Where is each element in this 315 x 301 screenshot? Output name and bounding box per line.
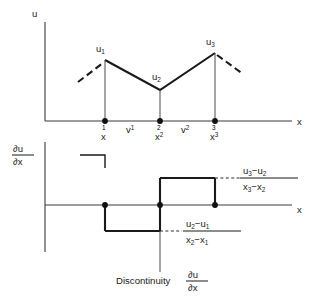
- right-dashed-extension: [217, 55, 243, 74]
- node-label-u2-subscript: 2: [157, 76, 161, 83]
- node-label-u1-subscript: 1: [101, 48, 105, 55]
- lower-node-dot-1: [102, 202, 108, 208]
- lower-y-axis-label-top: ∂u: [13, 143, 23, 154]
- element-label-v2-superscript: 2: [186, 124, 190, 131]
- lower-x-axis-label: x: [297, 204, 302, 215]
- tick-label-2-superscript: 2: [160, 131, 164, 138]
- tick-label-1-base: x: [101, 131, 106, 142]
- node-label-u3-subscript: 3: [211, 41, 215, 48]
- left-dashed-extension: [78, 63, 103, 82]
- slope-right-numerator: u3−u2: [243, 165, 267, 177]
- reference-level-stub: [80, 155, 105, 168]
- figure-container: u x u1 u2 u3 1 x 2: [0, 0, 315, 301]
- slope-left-den-b-sub: 1: [205, 239, 209, 246]
- tick-label-2: x2: [155, 131, 164, 142]
- element-label-v2: v2: [181, 124, 190, 135]
- lower-node-dot-2: [157, 202, 163, 208]
- caption-symbol-top: ∂u: [188, 269, 198, 280]
- slope-right-num-b-sub: 2: [263, 170, 267, 177]
- lower-plot-group: ∂u ∂x x u3−u2: [12, 142, 302, 272]
- slope-left-num-b-sub: 1: [206, 223, 210, 230]
- node-label-u1: u1: [96, 43, 105, 55]
- lower-node-dot-3: [212, 202, 218, 208]
- math-figure-svg: u x u1 u2 u3 1 x 2: [0, 0, 315, 301]
- upper-y-axis-label: u: [32, 8, 37, 19]
- upper-x-axis-label: x: [297, 116, 302, 127]
- slope-right-den-b-sub: 2: [262, 186, 266, 193]
- slope-left-numerator: u2−u1: [186, 218, 210, 230]
- element-label-v1-superscript: 1: [131, 124, 135, 131]
- piecewise-linear-curve: [105, 53, 215, 90]
- node-label-u3: u3: [206, 36, 215, 48]
- node-label-u2: u2: [152, 71, 161, 83]
- slope-right-denominator: x3−x2: [243, 181, 266, 193]
- caption-text: Discontinuity: [116, 275, 171, 286]
- slope-right-fraction: u3−u2 x3−x2: [240, 165, 298, 193]
- lower-y-axis-label-bottom: ∂x: [13, 156, 23, 167]
- slope-left-denominator: x2−x1: [186, 234, 209, 246]
- element-label-v1: v1: [126, 124, 135, 135]
- upper-plot-group: u x u1 u2 u3 1 x 2: [32, 8, 302, 142]
- figure-caption: Discontinuity ∂u ∂x: [116, 269, 208, 293]
- slope-left-fraction: u2−u1 x2−x1: [183, 218, 241, 246]
- caption-symbol-bottom: ∂x: [188, 282, 198, 293]
- tick-label-1: x: [101, 131, 106, 142]
- tick-label-3: x3: [210, 131, 219, 142]
- tick-number-1: 1: [102, 124, 106, 131]
- tick-label-3-superscript: 3: [215, 131, 219, 138]
